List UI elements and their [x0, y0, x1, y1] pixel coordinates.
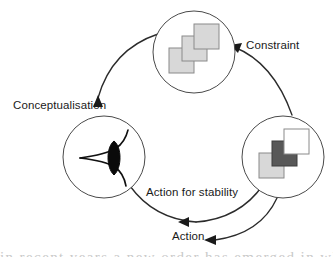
- arc-right-to-action-outer: [204, 198, 277, 245]
- label-conceptualisation: Conceptualisation: [13, 99, 106, 111]
- conceptualisation-node-circle: [63, 116, 145, 198]
- arc-right-to-top: [230, 43, 292, 115]
- action-square-top-right: [284, 129, 309, 154]
- constraint-square-top-right: [194, 24, 219, 49]
- arc-top-to-left: [93, 34, 158, 107]
- arc-right-to-top-path: [234, 47, 292, 115]
- arrow-head-action-icon: [204, 235, 216, 245]
- page-text-bleed: in recent years a new order has emerged …: [0, 249, 333, 257]
- label-constraint: Constraint: [246, 39, 299, 51]
- action-node: [242, 116, 324, 198]
- label-action-for-stability: Action for stability: [146, 186, 238, 198]
- arrow-head-action-for-stability-icon: [178, 217, 189, 227]
- constraint-node: [153, 11, 235, 93]
- label-action: Action: [172, 230, 205, 242]
- conceptualisation-node: [63, 116, 145, 198]
- eye-pupil: [108, 141, 120, 175]
- arc-top-to-left-path: [98, 34, 158, 98]
- cycle-diagram-figure: Constraint Conceptualisation Action for …: [0, 0, 333, 257]
